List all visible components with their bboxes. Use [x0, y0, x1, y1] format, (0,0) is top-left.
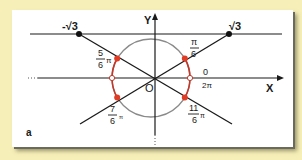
diagram-stage: -√3 √3 Y X O a π 6 5 6 π 7 6 π 11 6 π 0 …	[0, 0, 302, 160]
x-axis-label: X	[266, 82, 274, 94]
sqrt3-label: √3	[229, 20, 241, 32]
angle-5pi6-suffix: π	[106, 56, 112, 65]
y-axis-arrow-icon	[152, 13, 158, 20]
unit-circle-diagram: -√3 √3 Y X O a π 6 5 6 π 7 6 π 11 6 π 0 …	[0, 0, 302, 160]
angle-pi6-numerator: π	[191, 37, 197, 47]
panel-label: a	[26, 127, 32, 138]
y-axis-label: Y	[144, 14, 152, 26]
point-11pi6	[182, 95, 188, 101]
angle-7pi6-denominator: 6	[110, 116, 115, 126]
point-pi6	[182, 56, 188, 62]
angle-pi6-denominator: 6	[191, 49, 196, 59]
angle-7pi6-numerator: 7	[110, 104, 115, 114]
angle-5pi6-numerator: 5	[98, 48, 103, 58]
angle-11pi6-suffix: π	[200, 112, 205, 119]
two-pi-label: 2π	[202, 81, 212, 90]
angle-7pi6-suffix: π	[119, 114, 123, 120]
point-7pi6	[114, 95, 120, 101]
point-pi-open	[109, 75, 114, 80]
angle-11pi6-numerator: 11	[189, 103, 198, 113]
zero-label: 0	[203, 67, 208, 77]
angle-5pi6-denominator: 6	[98, 60, 103, 70]
x-axis-arrow-icon	[277, 75, 284, 81]
point-zero-open	[187, 75, 192, 80]
point-5pi6	[114, 56, 120, 62]
origin-label: O	[145, 82, 154, 94]
angle-11pi6-denominator: 6	[192, 115, 197, 125]
neg-sqrt3-label: -√3	[62, 20, 78, 32]
